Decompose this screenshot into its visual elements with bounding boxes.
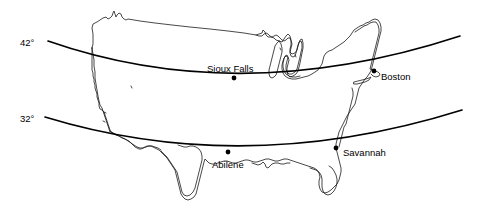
city-dot-abilene[interactable] <box>226 150 231 155</box>
parallel-42-line <box>48 36 460 73</box>
border-tick-marks <box>103 48 296 122</box>
west-coast-detail <box>92 48 110 132</box>
city-dot-savannah[interactable] <box>334 146 339 151</box>
city-dot-boston[interactable] <box>372 69 377 74</box>
city-label-abilene: Abilene <box>212 160 244 170</box>
florida-peninsula <box>310 166 337 195</box>
map-canvas <box>0 0 485 213</box>
us-mainland-outline <box>92 11 381 200</box>
city-label-sioux-falls: Sioux Falls <box>207 64 253 74</box>
city-label-boston: Boston <box>381 72 411 82</box>
parallels-group <box>45 36 462 146</box>
us-outline-group <box>92 11 381 200</box>
parallel-32-line <box>45 110 462 146</box>
city-label-savannah: Savannah <box>343 148 386 158</box>
long-island <box>354 77 371 84</box>
gulf-coast-detail <box>252 162 290 168</box>
city-dots-group <box>226 69 377 155</box>
parallel-label-42: 42° <box>20 38 34 48</box>
texas-outline <box>161 145 202 196</box>
city-dot-sioux-falls[interactable] <box>232 76 237 81</box>
map-figure: 42° 32° Sioux Falls Boston Abilene Savan… <box>0 0 485 213</box>
parallel-label-32: 32° <box>20 114 34 124</box>
